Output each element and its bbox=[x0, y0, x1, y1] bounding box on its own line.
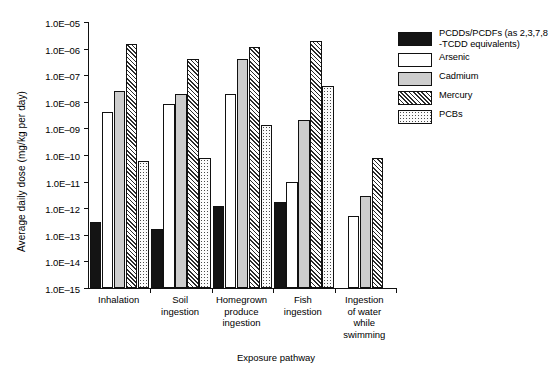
bar-cadmium bbox=[360, 196, 371, 288]
legend-label: PCDDs/PCDFs (as 2,3,7,8-TCDD equivalents… bbox=[439, 28, 548, 49]
bar-cadmium bbox=[175, 94, 186, 288]
chart-legend: PCDDs/PCDFs (as 2,3,7,8-TCDD equivalents… bbox=[398, 28, 548, 128]
chart-figure: Average daily dose (mg/kg per day) 1.0E–… bbox=[0, 0, 552, 373]
bar-pcbs bbox=[322, 86, 333, 288]
legend-item: Arsenic bbox=[398, 52, 548, 67]
y-axis-tick: 1.0E–15 bbox=[84, 288, 89, 289]
x-axis-tick bbox=[150, 288, 151, 293]
legend-item: PCBs bbox=[398, 109, 548, 124]
legend-swatch-pcdds-pcdfs-as-2-3-7-8 bbox=[398, 32, 432, 46]
bar-arsenic bbox=[348, 216, 359, 288]
bar-arsenic bbox=[102, 112, 113, 288]
legend-label: Cadmium bbox=[439, 71, 478, 82]
y-axis-tick-label: 1.0E–12 bbox=[45, 204, 80, 215]
y-axis-tick-label: 1.0E–09 bbox=[45, 124, 80, 135]
legend-swatch-arsenic bbox=[398, 53, 432, 67]
legend-swatch-pcbs bbox=[398, 110, 432, 124]
x-axis-category-label: Ingestion of water while swimming bbox=[334, 294, 395, 340]
x-axis-category-label: Soil ingestion bbox=[149, 294, 210, 317]
bar-pcdds-pcdfs-as-2-3-7-8 bbox=[274, 202, 285, 288]
bar-pcbs bbox=[138, 161, 149, 288]
x-axis-category-label: Inhalation bbox=[88, 294, 149, 306]
bar-cadmium bbox=[237, 59, 248, 288]
x-axis-category-label: Fish ingestion bbox=[272, 294, 333, 317]
y-axis-tick-label: 1.0E–08 bbox=[45, 97, 80, 108]
legend-swatch-cadmium bbox=[398, 72, 432, 86]
bar-group bbox=[273, 22, 334, 288]
y-axis-tick-label: 1.0E–10 bbox=[45, 151, 80, 162]
legend-label: Arsenic bbox=[439, 52, 470, 63]
y-axis-tick-label: 1.0E–13 bbox=[45, 230, 80, 241]
bar-pcbs bbox=[261, 125, 272, 288]
bar-mercury bbox=[310, 41, 321, 288]
x-axis-tick bbox=[273, 288, 274, 293]
bar-group bbox=[150, 22, 211, 288]
legend-item: PCDDs/PCDFs (as 2,3,7,8-TCDD equivalents… bbox=[398, 28, 548, 49]
bar-group bbox=[89, 22, 150, 288]
plot-area: 1.0E–051.0E–061.0E–071.0E–081.0E–091.0E–… bbox=[88, 22, 396, 289]
y-axis-title: Average daily dose (mg/kg per day) bbox=[16, 64, 27, 279]
bar-arsenic bbox=[286, 182, 297, 288]
bar-mercury bbox=[126, 44, 137, 288]
bar-mercury bbox=[187, 59, 198, 288]
bar-mercury bbox=[249, 47, 260, 289]
y-axis-tick-label: 1.0E–06 bbox=[45, 44, 80, 55]
legend-item: Mercury bbox=[398, 90, 548, 105]
y-axis-tick-label: 1.0E–14 bbox=[45, 257, 80, 268]
bar-pcdds-pcdfs-as-2-3-7-8 bbox=[213, 206, 224, 288]
y-axis-tick-label: 1.0E–07 bbox=[45, 71, 80, 82]
x-axis-category-label: Homegrown produce ingestion bbox=[211, 294, 272, 329]
x-axis-tick bbox=[335, 288, 336, 293]
bar-cadmium bbox=[114, 91, 125, 288]
y-axis-tick-label: 1.0E–05 bbox=[45, 18, 80, 29]
x-axis-tick bbox=[396, 288, 397, 293]
y-axis-tick-label: 1.0E–15 bbox=[45, 284, 80, 295]
legend-swatch-mercury bbox=[398, 91, 432, 105]
bar-pcbs bbox=[199, 158, 210, 288]
x-axis-title: Exposure pathway bbox=[0, 352, 552, 363]
bar-pcdds-pcdfs-as-2-3-7-8 bbox=[151, 229, 162, 288]
x-axis-tick bbox=[212, 288, 213, 293]
legend-label: PCBs bbox=[439, 109, 463, 120]
bar-group bbox=[212, 22, 273, 288]
bar-group bbox=[335, 22, 396, 288]
bar-arsenic bbox=[225, 94, 236, 288]
bar-mercury bbox=[372, 158, 383, 288]
legend-label: Mercury bbox=[439, 90, 472, 101]
bar-arsenic bbox=[163, 104, 174, 288]
y-axis-tick-label: 1.0E–11 bbox=[46, 177, 80, 188]
bar-pcdds-pcdfs-as-2-3-7-8 bbox=[90, 222, 101, 288]
bar-cadmium bbox=[298, 120, 309, 288]
legend-item: Cadmium bbox=[398, 71, 548, 86]
